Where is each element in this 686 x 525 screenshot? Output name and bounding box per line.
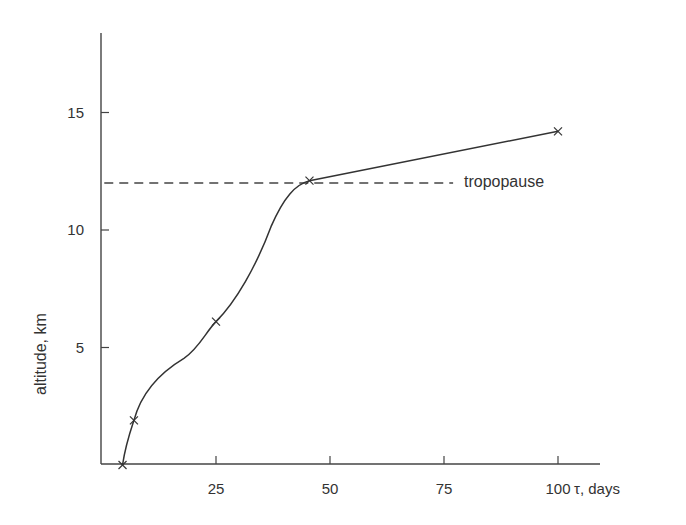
axes bbox=[101, 33, 600, 464]
x-axis-label: τ, days bbox=[574, 480, 620, 497]
y-axis-label: altitude, km bbox=[32, 313, 50, 395]
x-tick-label: 50 bbox=[310, 481, 350, 496]
y-tick-label: 10 bbox=[44, 222, 84, 237]
y-tick-label: 5 bbox=[44, 340, 84, 355]
x-tick-label: 25 bbox=[196, 481, 236, 496]
chart-canvas bbox=[0, 0, 686, 525]
y-tick-label: 15 bbox=[44, 105, 84, 120]
x-tick-label: 100 bbox=[538, 481, 578, 496]
x-ticks bbox=[216, 456, 558, 464]
tropopause-label: tropopause bbox=[464, 173, 544, 191]
y-ticks bbox=[101, 113, 109, 348]
x-tick-label: 75 bbox=[424, 481, 464, 496]
